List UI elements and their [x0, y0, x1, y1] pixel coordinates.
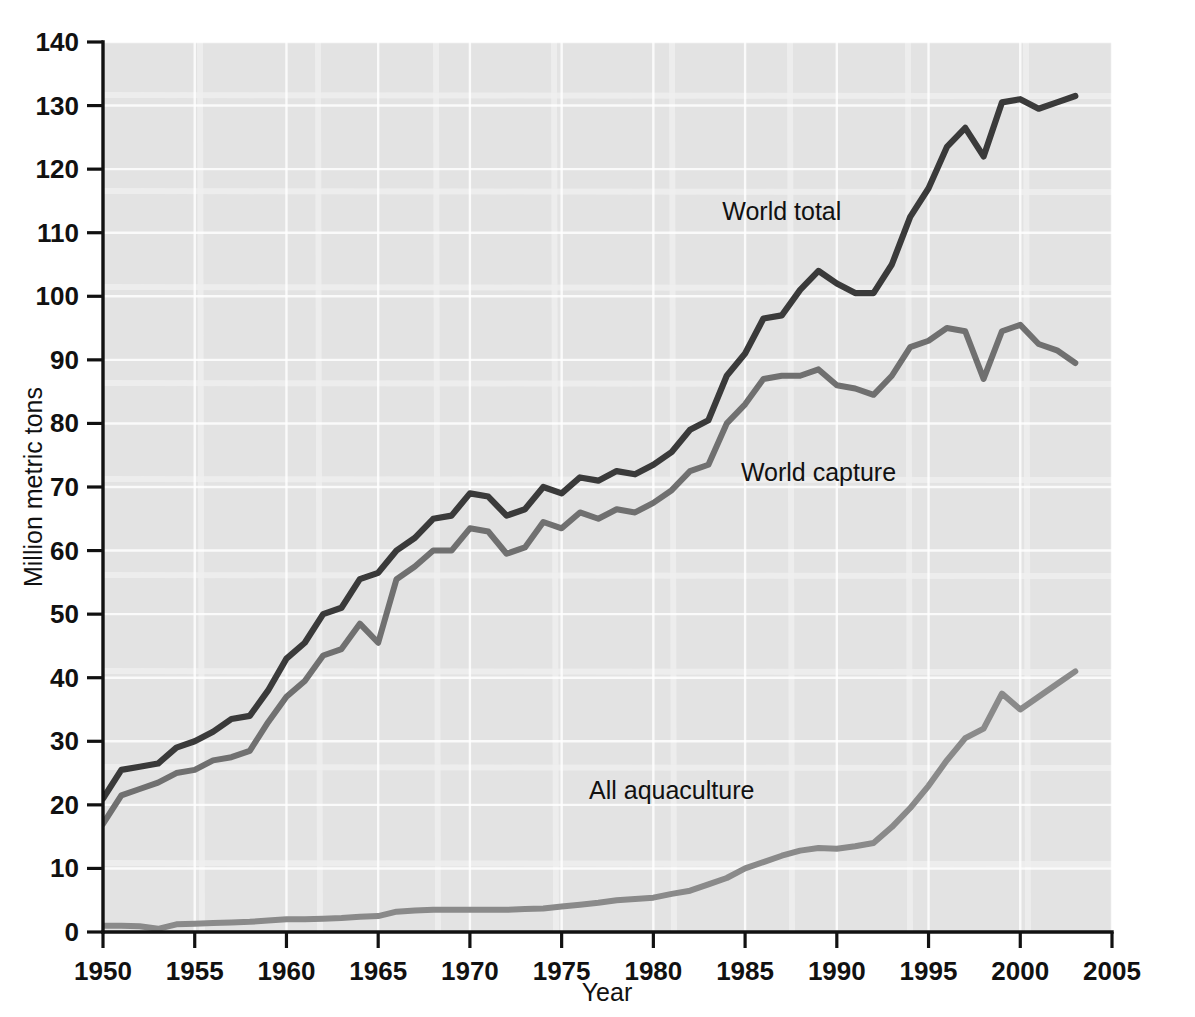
texture-seam-horizontal	[103, 767, 1112, 768]
x-tick-label: 1965	[349, 956, 407, 986]
y-axis-title: Million metric tons	[19, 387, 47, 587]
y-tick-label: 40	[50, 663, 79, 693]
x-tick-label: 1950	[74, 956, 132, 986]
x-axis-title: Year	[582, 978, 633, 1006]
y-tick-label: 20	[50, 790, 79, 820]
y-tick-label: 90	[50, 345, 79, 375]
x-tick-label: 1995	[900, 956, 958, 986]
texture-seam-horizontal	[103, 287, 1112, 288]
texture-seam-horizontal	[103, 863, 1112, 864]
series-label-world-total: World total	[722, 197, 841, 225]
y-tick-label: 60	[50, 536, 79, 566]
x-tick-label: 2000	[991, 956, 1049, 986]
series-label-all-aquaculture: All aquaculture	[589, 776, 754, 804]
y-tick-label: 130	[36, 91, 79, 121]
series-label-world-capture: World capture	[741, 458, 896, 486]
y-tick-label: 120	[36, 154, 79, 184]
x-tick-label: 1955	[166, 956, 224, 986]
texture-seam-horizontal	[103, 95, 1112, 96]
x-tick-label: 1980	[624, 956, 682, 986]
texture-seam-horizontal	[103, 575, 1112, 576]
x-tick-label: 1960	[258, 956, 316, 986]
texture-seam-horizontal	[103, 191, 1112, 192]
chart-figure: 0102030405060708090100110120130140 19501…	[0, 0, 1195, 1017]
x-tick-label: 1990	[808, 956, 866, 986]
line-chart: 0102030405060708090100110120130140 19501…	[0, 0, 1195, 1017]
x-tick-label: 1985	[716, 956, 774, 986]
x-tick-label: 1970	[441, 956, 499, 986]
y-tick-label: 0	[65, 917, 79, 947]
y-tick-label: 70	[50, 472, 79, 502]
y-tick-label: 50	[50, 599, 79, 629]
texture-seam-horizontal	[103, 383, 1112, 384]
y-tick-label: 140	[36, 27, 79, 57]
y-tick-label: 110	[37, 218, 79, 248]
y-tick-label: 80	[50, 408, 79, 438]
y-tick-label: 30	[50, 726, 79, 756]
x-tick-label: 2005	[1083, 956, 1141, 986]
texture-seam-horizontal	[103, 671, 1112, 672]
y-tick-label: 10	[50, 853, 79, 883]
y-tick-label: 100	[36, 281, 79, 311]
